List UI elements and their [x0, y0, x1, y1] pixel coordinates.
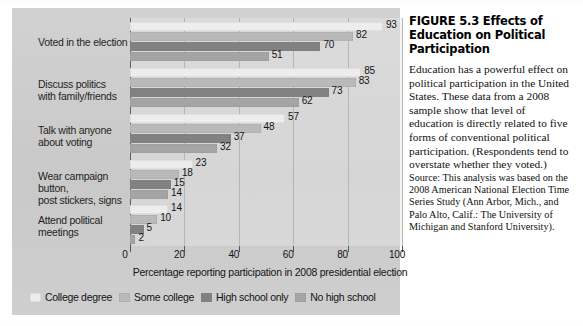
bar-row: 82 — [130, 32, 402, 41]
bar-row: 5 — [130, 225, 402, 234]
category-label: Discuss politicswith family/friends — [38, 78, 134, 102]
bar — [130, 78, 356, 87]
legend-item[interactable]: Some college — [119, 291, 194, 303]
bar-group: 57483732 — [130, 114, 402, 154]
category-label-line: post stickers, signs — [38, 194, 134, 206]
figure-caption-title: FIGURE 5.3 Effects of Education on Polit… — [409, 14, 571, 56]
legend-label: High school only — [216, 291, 288, 303]
bar-value-label: 62 — [302, 95, 313, 106]
bar — [130, 114, 285, 123]
bar — [130, 32, 353, 41]
bar-value-label: 14 — [171, 187, 182, 198]
x-tick-label-0: 0 — [122, 249, 127, 260]
bar — [130, 170, 179, 179]
bar-value-label: 32 — [220, 141, 231, 152]
category-label-line: meetings — [38, 226, 134, 238]
x-tick-label-40: 40 — [228, 249, 239, 260]
bar — [130, 88, 329, 97]
bar-row: 14 — [130, 190, 402, 199]
x-tick-mark-0 — [130, 246, 131, 252]
legend-label: Some college — [134, 291, 194, 303]
bar — [130, 215, 157, 224]
bar-row: 37 — [130, 134, 402, 143]
legend-item[interactable]: High school only — [201, 291, 288, 303]
bar-group: 85837362 — [130, 68, 402, 108]
bar-value-label: 51 — [272, 49, 283, 60]
x-axis-title: Percentage reporting participation in 20… — [130, 266, 410, 278]
bar — [130, 134, 231, 143]
gridline-100 — [402, 18, 403, 246]
bar-value-label: 23 — [196, 157, 207, 168]
bar-value-label: 5 — [147, 222, 152, 233]
page-edge-top — [0, 0, 583, 4]
bar-row: 51 — [130, 52, 402, 61]
bar — [130, 98, 299, 107]
bar — [130, 22, 383, 31]
category-label: Attend politicalmeetings — [38, 214, 134, 238]
bar-value-label: 10 — [160, 212, 171, 223]
bar-row: 2 — [130, 235, 402, 244]
bar-value-label: 73 — [332, 85, 343, 96]
plot-area: 93827051858373625748373223181514141052 — [130, 18, 402, 246]
figure-caption-body: Education has a powerful effect on polit… — [409, 63, 571, 172]
page-edge-bottom — [0, 320, 583, 326]
bar — [130, 144, 217, 153]
figure-5-3: Voted in the electionDiscuss politicswit… — [0, 0, 583, 326]
x-tick-label-80: 80 — [337, 249, 348, 260]
legend-label: No high school — [310, 291, 375, 303]
bar-value-label: 57 — [288, 111, 299, 122]
bar — [130, 190, 168, 199]
figure-caption: FIGURE 5.3 Effects of Education on Polit… — [409, 14, 571, 233]
category-label-line: Voted in the election — [38, 36, 134, 48]
bar — [130, 180, 171, 189]
x-tick-label-60: 60 — [283, 249, 294, 260]
category-label: Voted in the election — [38, 36, 134, 48]
bar-group: 23181514 — [130, 160, 402, 200]
legend-item[interactable]: College degree — [30, 291, 112, 303]
bar-value-label: 37 — [234, 131, 245, 142]
category-label-line: Attend political — [38, 214, 134, 226]
bar-group: 93827051 — [130, 22, 402, 62]
bar-row: 70 — [130, 42, 402, 51]
bar-value-label: 82 — [356, 29, 367, 40]
bar-row: 48 — [130, 124, 402, 133]
legend-swatch-icon — [295, 293, 306, 302]
bar-row: 10 — [130, 215, 402, 224]
bar-row: 62 — [130, 98, 402, 107]
legend-item[interactable]: No high school — [295, 291, 375, 303]
category-label-line: Talk with anyone — [38, 124, 134, 136]
category-label: Wear campaign button,post stickers, sign… — [38, 170, 134, 206]
bar-value-label: 2 — [138, 232, 143, 243]
bar — [130, 52, 269, 61]
legend-label: College degree — [45, 291, 112, 303]
bar-value-label: 70 — [323, 39, 334, 50]
legend-swatch-icon — [30, 293, 41, 302]
bar-row: 73 — [130, 88, 402, 97]
figure-caption-source: Source: This analysis was based on the 2… — [409, 172, 571, 233]
bar-row: 23 — [130, 160, 402, 169]
category-label-line: Wear campaign button, — [38, 170, 134, 194]
chart-panel: Voted in the electionDiscuss politicswit… — [12, 8, 400, 315]
bar-value-label: 48 — [264, 121, 275, 132]
x-tick-label-100: 100 — [389, 249, 405, 260]
bar — [130, 68, 361, 77]
category-label-line: Discuss politics — [38, 78, 134, 90]
bar-row: 18 — [130, 170, 402, 179]
bar-value-label: 14 — [171, 202, 182, 213]
bar-row: 83 — [130, 78, 402, 87]
category-label: Talk with anyoneabout voting — [38, 124, 134, 148]
bar — [130, 235, 135, 244]
bar-row: 32 — [130, 144, 402, 153]
legend-swatch-icon — [119, 293, 130, 302]
bar-group: 141052 — [130, 205, 402, 245]
legend-swatch-icon — [201, 293, 212, 302]
category-label-line: with family/friends — [38, 90, 134, 102]
bar-value-label: 83 — [359, 75, 370, 86]
bar-value-label: 93 — [386, 19, 397, 30]
bar — [130, 42, 320, 51]
category-label-line: about voting — [38, 136, 134, 148]
chart-legend: College degreeSome collegeHigh school on… — [30, 291, 390, 303]
x-tick-label-20: 20 — [174, 249, 185, 260]
